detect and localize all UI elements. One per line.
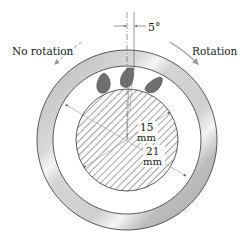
droplet-right [145,77,162,93]
angle-label: 5° [148,21,161,34]
droplet-left [97,73,110,93]
shaft-diameter-unit: mm [137,132,156,143]
no-rotation-label: No rotation [12,45,74,57]
journal-bearing-diagram: 5° No rotation Rotation 15 mm 21 mm [0,0,243,248]
rotation-label: Rotation [192,45,238,57]
ring-diameter-unit: mm [143,156,162,167]
